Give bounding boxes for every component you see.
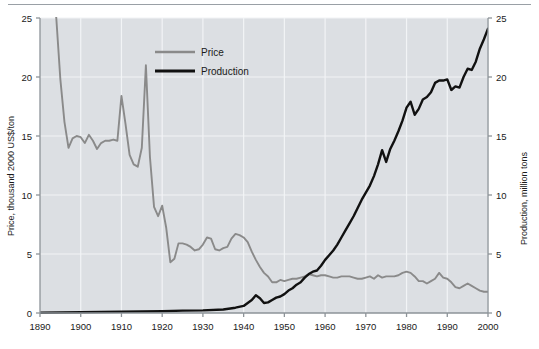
x-axis-tick-label: 2000 (477, 321, 498, 332)
y-axis-left-tick-label: 15 (21, 131, 32, 142)
y-axis-right-tick-label: 20 (496, 72, 507, 83)
x-axis-tick-label: 1970 (355, 321, 376, 332)
x-axis-tick-label: 1910 (111, 321, 132, 332)
dual-axis-line-chart: 0510152025051015202518901900191019201930… (0, 0, 539, 349)
y-axis-right-tick-label: 25 (496, 13, 507, 24)
plot-area-background (40, 18, 488, 313)
x-axis-tick-label: 1980 (396, 321, 417, 332)
y-axis-right-tick-label: 10 (496, 190, 507, 201)
x-axis-tick-label: 1950 (274, 321, 295, 332)
y-axis-right-tick-label: 5 (496, 249, 501, 260)
y-axis-left-tick-label: 25 (21, 13, 32, 24)
x-axis-tick-label: 1960 (315, 321, 336, 332)
x-axis-tick-label: 1900 (70, 321, 91, 332)
chart-figure: 0510152025051015202518901900191019201930… (0, 0, 539, 349)
x-axis-tick-label: 1890 (29, 321, 50, 332)
y-axis-left-title: Price, thousand 2000 US$/ton (6, 116, 16, 236)
x-axis-tick-label: 1990 (437, 321, 458, 332)
y-axis-right-tick-label: 0 (496, 308, 501, 319)
y-axis-left-tick-label: 20 (21, 72, 32, 83)
y-axis-left-tick-label: 5 (27, 249, 32, 260)
x-axis-tick-label: 1940 (233, 321, 254, 332)
y-axis-left-tick-label: 0 (27, 308, 32, 319)
x-axis-tick-label: 1930 (192, 321, 213, 332)
y-axis-right-title: Production, million tons (519, 151, 529, 245)
y-axis-right-tick-label: 15 (496, 131, 507, 142)
x-axis-tick-label: 1920 (152, 321, 173, 332)
y-axis-left-tick-label: 10 (21, 190, 32, 201)
legend-label-price: Price (201, 47, 224, 58)
plot-background-group (40, 18, 488, 313)
legend-label-production: Production (201, 66, 249, 77)
